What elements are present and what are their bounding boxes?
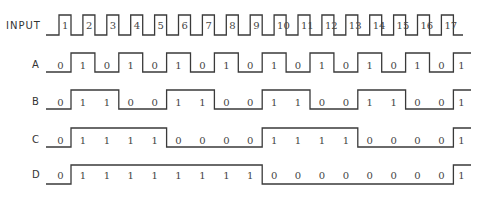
input-pulse-number: 9 (253, 20, 259, 31)
input-pulse-number: 5 (158, 20, 164, 31)
bit-value: 1 (151, 135, 157, 146)
signal-label: D (32, 169, 40, 180)
bit-value: 0 (57, 60, 63, 71)
bit-value: 1 (414, 60, 420, 71)
bit-value: 1 (390, 97, 396, 108)
bit-value: 0 (151, 97, 157, 108)
input-pulse-number: 14 (373, 20, 386, 31)
bit-value: 0 (367, 170, 373, 181)
bit-value: 0 (247, 135, 253, 146)
bit-value: 1 (104, 170, 110, 181)
bit-value: 1 (151, 170, 157, 181)
bit-value: 0 (295, 170, 301, 181)
signal-row-a: A010101010101010101 (32, 53, 471, 72)
bit-value: 0 (57, 97, 63, 108)
bit-value: 1 (295, 135, 301, 146)
bit-value: 1 (223, 170, 229, 181)
bit-value: 1 (458, 60, 464, 71)
input-pulse-number: 3 (110, 20, 116, 31)
bit-value: 0 (319, 170, 325, 181)
bit-value: 1 (175, 60, 181, 71)
bit-value: 1 (128, 60, 134, 71)
bit-value: 0 (247, 60, 253, 71)
bit-value: 1 (175, 170, 181, 181)
input-pulse-number: 16 (421, 20, 434, 31)
bit-value: 0 (438, 170, 444, 181)
bit-value: 0 (57, 170, 63, 181)
bit-value: 0 (414, 170, 420, 181)
bit-value: 0 (151, 60, 157, 71)
bit-value: 1 (271, 60, 277, 71)
input-pulse-number: 17 (444, 20, 457, 31)
bit-value: 1 (271, 97, 277, 108)
signal-row-c: C011110000111100001 (32, 128, 471, 147)
bit-value: 0 (175, 135, 181, 146)
bit-value: 0 (128, 97, 134, 108)
bit-value: 0 (295, 60, 301, 71)
bit-value: 0 (271, 170, 277, 181)
bit-value: 0 (247, 97, 253, 108)
input-pulse-number: 12 (325, 20, 338, 31)
bit-value: 1 (199, 97, 205, 108)
bit-value: 1 (128, 135, 134, 146)
input-pulse-number: 11 (301, 20, 314, 31)
signal-label: B (32, 96, 39, 107)
bit-value: 1 (319, 60, 325, 71)
bit-value: 1 (80, 170, 86, 181)
input-pulse-number: 13 (349, 20, 362, 31)
signal-row-d: D011111111000000001 (32, 165, 471, 184)
signal-row-b: B011001100110011001 (32, 90, 471, 109)
bit-value: 1 (319, 135, 325, 146)
input-row: INPUT1234567891011121314151617 (6, 15, 463, 35)
bit-value: 1 (104, 135, 110, 146)
bit-value: 1 (247, 170, 253, 181)
bit-value: 1 (458, 97, 464, 108)
bit-value: 0 (199, 60, 205, 71)
bit-value: 1 (458, 135, 464, 146)
bit-value: 0 (390, 170, 396, 181)
bit-value: 0 (414, 97, 420, 108)
input-pulse-number: 6 (182, 20, 188, 31)
bit-value: 0 (223, 135, 229, 146)
signal-label: A (32, 59, 39, 70)
bit-value: 0 (438, 60, 444, 71)
bit-value: 0 (390, 60, 396, 71)
bit-value: 1 (367, 97, 373, 108)
bit-value: 0 (57, 135, 63, 146)
bit-value: 0 (343, 97, 349, 108)
input-pulse-number: 1 (62, 20, 68, 31)
signal-label: C (32, 134, 39, 145)
bit-value: 0 (367, 135, 373, 146)
bit-value: 0 (199, 135, 205, 146)
input-pulse-number: 8 (229, 20, 235, 31)
input-pulse-number: 7 (205, 20, 211, 31)
bit-value: 0 (438, 135, 444, 146)
bit-value: 0 (343, 170, 349, 181)
bit-value: 1 (271, 135, 277, 146)
bit-value: 1 (104, 97, 110, 108)
bit-value: 1 (80, 135, 86, 146)
bit-value: 1 (458, 170, 464, 181)
bit-value: 0 (414, 135, 420, 146)
bit-value: 1 (80, 60, 86, 71)
input-pulse-number: 2 (86, 20, 92, 31)
input-pulse-number: 10 (277, 20, 290, 31)
input-label: INPUT (6, 20, 41, 31)
bit-value: 0 (343, 60, 349, 71)
bit-value: 1 (199, 170, 205, 181)
bit-value: 0 (319, 97, 325, 108)
bit-value: 0 (223, 97, 229, 108)
timing-diagram: INPUT1234567891011121314151617A010101010… (0, 0, 489, 197)
bit-value: 0 (390, 135, 396, 146)
bit-value: 1 (223, 60, 229, 71)
bit-value: 1 (343, 135, 349, 146)
bit-value: 1 (80, 97, 86, 108)
bit-value: 1 (128, 170, 134, 181)
input-pulse-number: 4 (134, 20, 140, 31)
bit-value: 0 (438, 97, 444, 108)
bit-value: 1 (295, 97, 301, 108)
bit-value: 1 (175, 97, 181, 108)
bit-value: 0 (104, 60, 110, 71)
input-pulse-number: 15 (397, 20, 410, 31)
bit-value: 1 (367, 60, 373, 71)
